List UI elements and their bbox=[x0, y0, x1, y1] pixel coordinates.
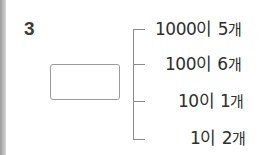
count: 6 bbox=[217, 54, 227, 74]
decomposition-item-tens: 10이 1개 bbox=[178, 93, 244, 110]
place-value: 1 bbox=[190, 128, 200, 148]
place-value: 100 bbox=[165, 54, 196, 74]
unit: 개 bbox=[228, 56, 242, 74]
bracket-tick bbox=[133, 64, 145, 65]
unit: 개 bbox=[228, 21, 242, 39]
bracket-tick bbox=[133, 139, 145, 140]
bracket-line bbox=[133, 29, 134, 140]
decomposition-item-thousands: 1000이 5개 bbox=[155, 21, 242, 38]
count: 2 bbox=[222, 128, 232, 148]
bracket-tick bbox=[133, 101, 145, 102]
particle: 이 bbox=[200, 128, 216, 148]
particle: 이 bbox=[196, 19, 212, 39]
decomposition-item-ones: 1이 2개 bbox=[190, 130, 246, 147]
place-value: 1000 bbox=[155, 19, 196, 39]
particle: 이 bbox=[199, 91, 215, 111]
unit: 개 bbox=[232, 130, 246, 148]
bracket-tick bbox=[133, 29, 145, 30]
page-edge-bar bbox=[0, 0, 6, 155]
decomposition-item-hundreds: 100이 6개 bbox=[165, 56, 242, 73]
place-value: 10 bbox=[178, 91, 199, 111]
unit: 개 bbox=[230, 93, 244, 111]
count: 1 bbox=[220, 91, 230, 111]
answer-box[interactable] bbox=[50, 64, 120, 100]
count: 5 bbox=[218, 19, 228, 39]
problem-number: 3 bbox=[24, 19, 35, 38]
particle: 이 bbox=[196, 54, 212, 74]
